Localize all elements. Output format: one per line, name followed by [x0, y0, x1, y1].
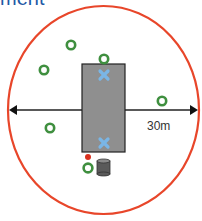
- distance-label: 30m: [147, 119, 170, 133]
- ring-marker-icon: [100, 55, 108, 63]
- ring-marker-icon: [67, 41, 75, 49]
- cylinder-icon: [97, 159, 110, 176]
- ring-marker-icon: [46, 124, 54, 132]
- red-dot-icon: [85, 154, 91, 160]
- ring-marker-icon: [40, 66, 48, 74]
- right-arrowhead-icon: [190, 105, 198, 115]
- left-arrowhead-icon: [9, 105, 17, 115]
- ring-marker-icon: [84, 164, 93, 173]
- field-diagram: [0, 0, 202, 221]
- ring-marker-icon: [158, 97, 166, 105]
